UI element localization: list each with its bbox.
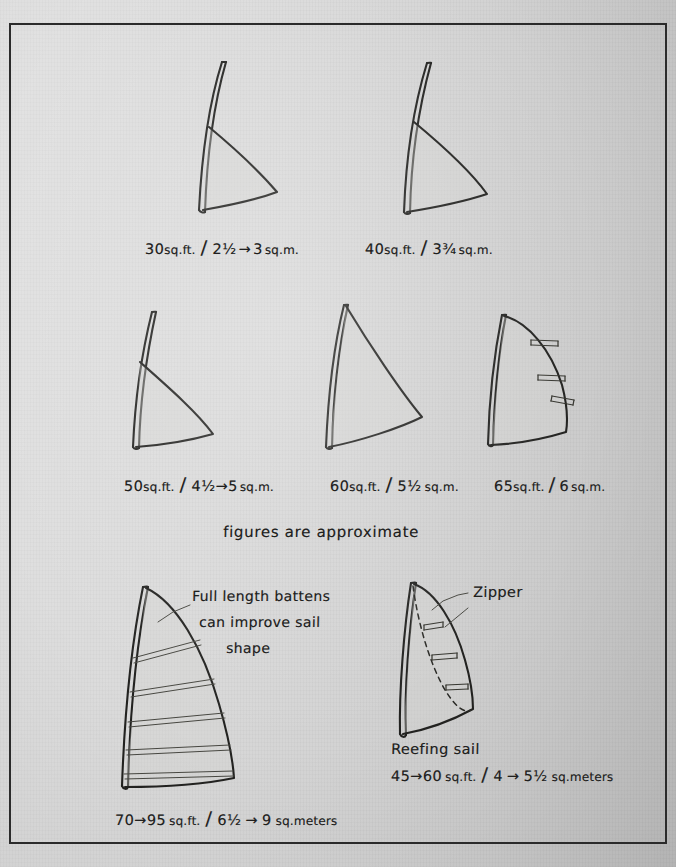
- sail-50-sqm-a: 4: [191, 478, 201, 494]
- sail-60-sqft-number: 60: [330, 478, 350, 494]
- batten-sail-label: 70→95sq.ft./6½→9sq.meters: [115, 807, 338, 829]
- batten-sqm-unit: sq.meters: [271, 814, 337, 828]
- sail-50-arrow: →: [215, 478, 228, 494]
- sail-40-sqft-unit: sq.ft.: [384, 243, 416, 257]
- sail-60-sqm-a: 5: [397, 478, 407, 494]
- sail-50-sqm-b: 5: [228, 478, 238, 494]
- batten-annotation-line-3: shape: [226, 640, 271, 656]
- sail-30-sqft-unit: sq.ft.: [164, 243, 196, 257]
- sail-60-sqm-unit: sq.m.: [421, 480, 458, 494]
- batten-annotation-line-2: can improve sail: [199, 614, 321, 630]
- reefing-sqm-b: 5: [523, 768, 533, 784]
- reefing-sqft-unit: sq.ft.: [442, 770, 477, 784]
- batten-slash: /: [200, 807, 217, 829]
- reefing-arrow-1: →: [410, 768, 423, 784]
- sail-50-sqm-unit: sq.m.: [238, 480, 274, 494]
- sail-30-sqft-number: 30: [145, 241, 165, 257]
- sail-60-label: 60sq.ft./5½sq.m.: [330, 473, 459, 495]
- batten-sqm-a: 6: [217, 812, 227, 828]
- reefing-sqm-a: 4: [493, 768, 503, 784]
- sail-30-arrow: →: [236, 241, 253, 257]
- zipper-label: Zipper: [473, 584, 523, 600]
- sail-65-sqm-a: 6: [559, 478, 569, 494]
- sail-40-label: 40sq.ft./3¾sq.m.: [365, 236, 493, 258]
- sail-40-sqft-number: 40: [365, 241, 385, 257]
- figures-approximate-note: figures are approximate: [223, 523, 419, 541]
- sail-65-slash: /: [544, 473, 559, 495]
- page-frame: [9, 23, 667, 844]
- sail-65-sqft-number: 65: [494, 478, 514, 494]
- reefing-sqft-b: 60: [423, 768, 443, 784]
- sail-65-sqm-unit: sq.m.: [569, 480, 605, 494]
- sail-30-label: 30sq.ft./2½→3sq.m.: [145, 236, 299, 258]
- reefing-sqft-a: 45: [391, 768, 411, 784]
- reefing-frac-b: ½: [533, 768, 548, 784]
- batten-arrow-2: →: [241, 812, 262, 828]
- sail-50-sqft-number: 50: [124, 478, 144, 494]
- batten-sqm-b: 9: [262, 812, 272, 828]
- sail-60-sqft-unit: sq.ft.: [349, 480, 381, 494]
- reefing-sail-label: 45→60sq.ft./4→5½sq.meters: [391, 763, 614, 785]
- sail-60-frac-a: ½: [407, 478, 422, 494]
- batten-annotation-line-1: Full length battens: [192, 588, 331, 604]
- batten-sqft-unit: sq.ft.: [166, 814, 201, 828]
- sail-30-sqm-a: 2: [212, 241, 222, 257]
- reefing-sqm-unit: sq.meters: [547, 770, 613, 784]
- sail-65-label: 65sq.ft./6sq.m.: [494, 473, 606, 495]
- sail-50-frac-a: ½: [201, 478, 216, 494]
- sail-50-sqft-unit: sq.ft.: [143, 480, 175, 494]
- sail-30-slash: /: [195, 236, 212, 258]
- sail-30-sqm-b: 3: [253, 241, 263, 257]
- reefing-slash: /: [476, 763, 493, 785]
- diagram-page: .ink { fill:none; stroke:#222220; stroke…: [0, 0, 676, 867]
- batten-arrow-1: →: [134, 812, 147, 828]
- sail-60-slash: /: [380, 473, 397, 495]
- batten-frac-a: ½: [227, 812, 242, 828]
- sail-40-slash: /: [415, 236, 432, 258]
- sail-30-frac-a: ½: [222, 241, 237, 257]
- batten-sqft-a: 70: [115, 812, 135, 828]
- sail-40-sqm-unit: sq.m.: [456, 243, 492, 257]
- reefing-sail-title: Reefing sail: [391, 741, 480, 757]
- reefing-arrow-2: →: [503, 768, 524, 784]
- sail-50-label: 50sq.ft./4½→5sq.m.: [124, 473, 274, 495]
- sail-30-sqm-unit: sq.m.: [263, 243, 299, 257]
- sail-40-frac-a: ¾: [442, 241, 457, 257]
- sail-65-sqft-unit: sq.ft.: [513, 480, 545, 494]
- sail-50-slash: /: [174, 473, 191, 495]
- sail-40-sqm-a: 3: [432, 241, 442, 257]
- batten-sqft-b: 95: [147, 812, 167, 828]
